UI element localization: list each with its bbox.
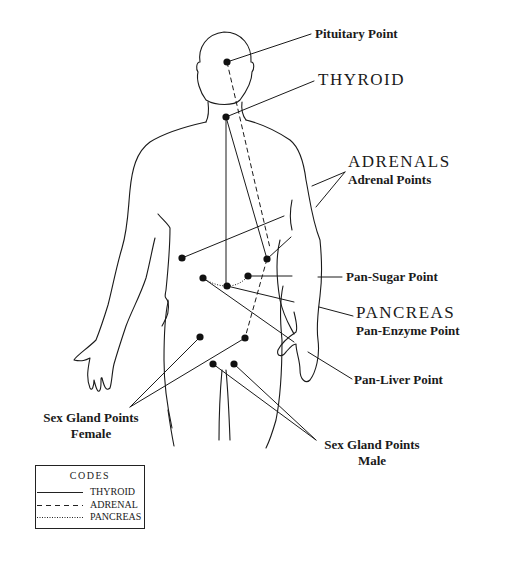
dotted-line-icon (37, 516, 85, 519)
point-pan-sugar (244, 272, 251, 279)
thyroid-code-lines (226, 117, 267, 286)
solid-line-icon (37, 491, 85, 494)
label-sex-gland-female-line1: Sex Gland Points (24, 410, 158, 426)
legend-label-thyroid: THYROID (90, 486, 135, 497)
legend-title: CODES (36, 470, 144, 481)
label-sex-gland-male: Sex Gland Points Male (310, 437, 434, 469)
legend-item-thyroid: THYROID (36, 486, 144, 498)
label-sex-gland-male-line1: Sex Gland Points (310, 437, 434, 453)
point-sex-female-left (196, 333, 203, 340)
legend-item-pancreas: PANCREAS (36, 511, 144, 523)
label-adrenal-points: Adrenal Points (348, 172, 431, 188)
leader-lines (130, 34, 353, 440)
point-pancreas-center (223, 282, 230, 289)
label-sex-gland-female-line2: Female (24, 426, 158, 442)
label-pituitary-point: Pituitary Point (315, 26, 398, 42)
label-thyroid: THYROID (318, 70, 405, 90)
legend-box: CODES THYROID ADRENAL PANCREAS (35, 465, 145, 529)
point-sex-female-right (241, 334, 248, 341)
dashed-line-icon (37, 504, 85, 507)
legend-item-adrenal: ADRENAL (36, 499, 144, 511)
point-adrenal-left (178, 254, 185, 261)
label-pan-enzyme-point: Pan-Enzyme Point (356, 323, 460, 339)
label-adrenals-heading: ADRENALS (348, 152, 451, 172)
point-thyroid (222, 113, 229, 120)
label-sex-gland-female: Sex Gland Points Female (24, 410, 158, 442)
point-pancreas-left (199, 274, 206, 281)
legend-label-adrenal: ADRENAL (90, 499, 138, 510)
point-sex-male-left (209, 360, 216, 367)
point-sex-male-right (230, 360, 237, 367)
label-sex-gland-male-line2: Male (310, 453, 434, 469)
body-outline (74, 32, 322, 448)
legend-label-pancreas: PANCREAS (90, 511, 141, 522)
label-pan-sugar-point: Pan-Sugar Point (346, 269, 438, 285)
point-pituitary (223, 58, 230, 65)
point-adrenal-right (263, 255, 270, 262)
label-pancreas-heading: PANCREAS (356, 303, 455, 323)
label-pan-liver-point: Pan-Liver Point (354, 372, 443, 388)
